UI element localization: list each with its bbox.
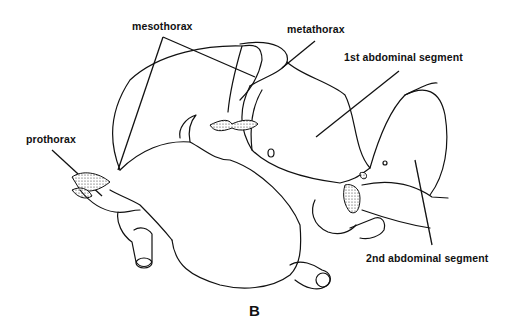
insect-line-drawing (0, 0, 527, 331)
label-2nd-abdominal-segment: 2nd abdominal segment (366, 252, 488, 264)
label-1st-abdominal-segment: 1st abdominal segment (344, 51, 463, 63)
insect-body-diagram: mesothorax metathorax 1st abdominal segm… (0, 0, 527, 331)
panel-label: B (249, 302, 260, 319)
label-metathorax: metathorax (287, 23, 345, 35)
label-prothorax: prothorax (26, 133, 76, 145)
label-mesothorax: mesothorax (132, 20, 193, 32)
